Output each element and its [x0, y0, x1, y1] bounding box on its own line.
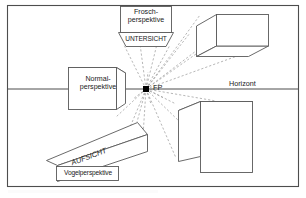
normal-label-line2: perspektive	[80, 83, 116, 91]
upper-cube-front-face	[217, 15, 269, 47]
below-frame-artifact	[8, 190, 158, 193]
figure-canvas: Frosch- perspektive UNTERSICHT Normal- p…	[0, 0, 306, 198]
perspective-diagram	[0, 0, 306, 198]
horizon-label: Horizont	[229, 80, 256, 88]
lower-box-front-face	[201, 102, 253, 173]
vanishing-point-label: FP	[153, 84, 162, 92]
vogelperspektive-label: Vogelperspektive	[58, 169, 118, 176]
normal-label-line1: Normal-	[85, 75, 110, 83]
untersicht-label: UNTERSICHT	[122, 35, 170, 42]
lower-box-left-face	[179, 102, 201, 162]
normal-perspektive-label: Normal- perspektive	[72, 76, 124, 92]
frosch-perspektive-label: Frosch- perspektive	[122, 9, 170, 25]
frosch-label-line2: perspektive	[128, 16, 164, 24]
frosch-label-line1: Frosch-	[134, 8, 158, 16]
vanishing-point-dot	[143, 86, 149, 92]
